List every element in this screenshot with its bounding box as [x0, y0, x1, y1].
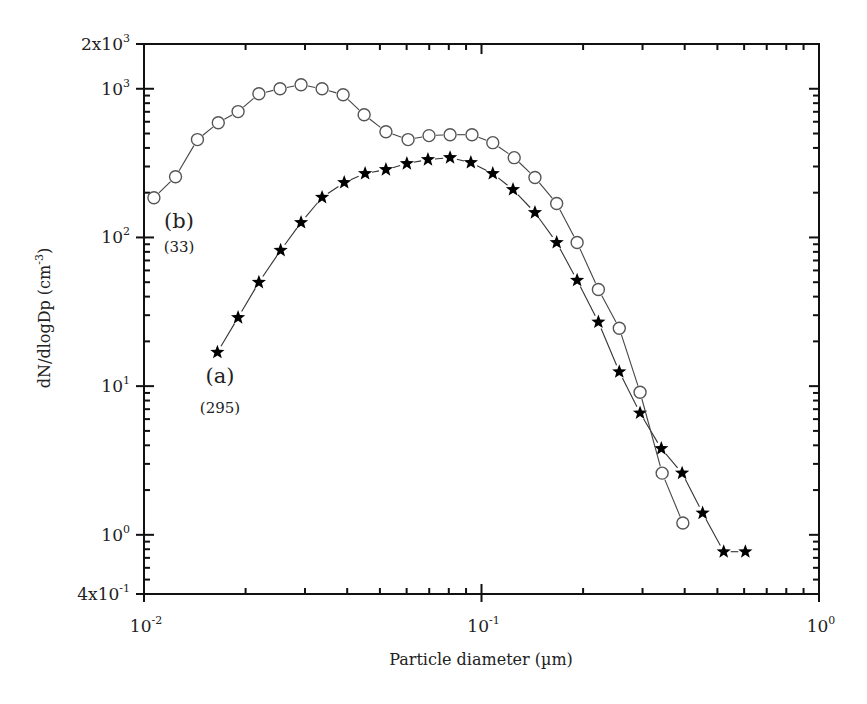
filled-star-marker: [591, 315, 605, 329]
series-line: [287, 86, 294, 87]
open-circle-marker: [529, 172, 541, 184]
filled-star-marker: [252, 275, 266, 289]
series-line: [329, 91, 337, 93]
filled-star-marker: [464, 155, 478, 169]
filled-star-marker: [506, 182, 520, 196]
series-a-count: (295): [200, 399, 240, 417]
open-circle-marker: [634, 386, 646, 398]
series-line: [665, 480, 680, 517]
series-line: [243, 98, 253, 107]
series-line: [263, 256, 277, 276]
y-tick-label: 101: [101, 374, 130, 396]
series-line: [393, 165, 400, 167]
series-line: [242, 288, 256, 311]
series-line: [370, 119, 381, 127]
filled-star-marker: [550, 235, 564, 249]
open-circle-marker: [191, 134, 203, 146]
open-circle-marker: [358, 109, 370, 121]
x-tick-label: 10-2: [130, 614, 162, 636]
series-b-count: (33): [164, 238, 195, 256]
filled-star-marker: [231, 310, 245, 324]
series-line: [306, 203, 318, 217]
open-circle-marker: [337, 89, 349, 101]
y-tick-label: 103: [101, 77, 130, 99]
open-circle-marker: [253, 88, 265, 100]
series-line: [348, 100, 359, 110]
plot-border: [144, 44, 819, 594]
x-tick-label: 100: [807, 614, 836, 636]
open-circle-marker: [148, 192, 160, 204]
series-line: [414, 161, 421, 162]
filled-star-marker: [570, 273, 584, 287]
filled-star-marker: [358, 166, 372, 180]
series-annotations: (a)(295)(b)(33): [164, 209, 241, 417]
filled-star-marker: [315, 190, 329, 204]
filled-star-marker: [443, 150, 457, 164]
series-line: [539, 183, 552, 198]
series-line: [706, 519, 720, 545]
open-circle-marker: [316, 83, 328, 95]
y-tick-label: 100: [101, 523, 130, 545]
series-line: [519, 163, 530, 173]
series-line: [477, 166, 486, 171]
series-line: [159, 182, 171, 193]
plot-frame: [144, 44, 819, 594]
series-a-label: (a): [206, 364, 235, 388]
filled-star-marker: [337, 175, 351, 189]
series-a: [210, 150, 752, 558]
open-circle-marker: [232, 106, 244, 118]
series-b-label: (b): [164, 209, 194, 233]
open-circle-marker: [212, 117, 224, 129]
filled-star-marker: [400, 156, 414, 170]
series-line: [457, 159, 464, 161]
series-line: [221, 324, 235, 347]
series-line: [498, 178, 507, 185]
filled-star-marker: [717, 544, 731, 558]
series-b: [148, 79, 689, 529]
open-circle-marker: [656, 467, 668, 479]
series-line: [224, 115, 232, 119]
axis-ticks: [136, 44, 819, 602]
series-line: [685, 479, 699, 507]
open-circle-marker: [551, 198, 563, 210]
open-circle-marker: [380, 126, 392, 138]
open-circle-marker: [274, 83, 286, 95]
series-line: [415, 137, 422, 138]
filled-star-marker: [421, 152, 435, 166]
x-tick-label: 10-1: [467, 614, 499, 636]
filled-star-marker: [379, 162, 393, 176]
series-line: [499, 147, 509, 154]
series-line: [602, 296, 616, 322]
y-tick-label: 4x10-1: [77, 582, 130, 604]
open-circle-marker: [295, 79, 307, 91]
open-circle-marker: [571, 236, 583, 248]
series-line: [435, 158, 443, 159]
open-circle-marker: [170, 171, 182, 183]
series-line: [372, 171, 379, 172]
series-line: [518, 195, 530, 208]
series-line: [560, 249, 574, 275]
open-circle-marker: [466, 129, 478, 141]
filled-star-marker: [738, 544, 752, 558]
open-circle-marker: [508, 152, 520, 164]
series-line: [203, 127, 213, 135]
series-line: [642, 399, 660, 466]
series-line: [351, 176, 359, 179]
tick-labels: 10-210-11004x10-11001011021032x103: [77, 32, 835, 636]
series-line: [601, 328, 616, 365]
filled-star-marker: [612, 364, 626, 378]
open-circle-marker: [423, 130, 435, 142]
series-line: [621, 335, 637, 386]
series-line: [666, 454, 678, 468]
series-line: [393, 134, 402, 137]
series-line: [539, 218, 552, 237]
data-series: [148, 79, 753, 558]
open-circle-marker: [444, 129, 456, 141]
y-axis-title: dN/dlogDp (cm-3): [33, 248, 54, 388]
series-line: [478, 137, 486, 140]
series-line: [560, 210, 574, 237]
series-line: [328, 186, 339, 193]
filled-star-marker: [210, 345, 224, 359]
series-line: [285, 228, 297, 245]
series-line: [266, 90, 274, 92]
